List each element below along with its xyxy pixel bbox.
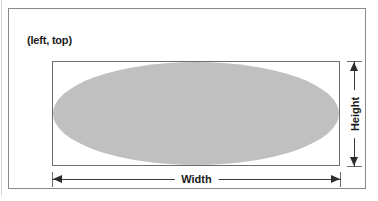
width-dimension: Width bbox=[52, 172, 341, 188]
arrow-down-icon bbox=[350, 157, 358, 166]
bounding-box bbox=[52, 61, 340, 166]
anchor-point-label: (left, top) bbox=[27, 34, 72, 46]
figure-frame: (left, top) Width Height bbox=[8, 8, 366, 189]
arrow-right-icon bbox=[331, 175, 340, 183]
width-dimension-label: Width bbox=[174, 171, 218, 187]
ellipse-shape bbox=[53, 62, 339, 165]
height-dimension-label: Height bbox=[348, 90, 363, 138]
height-dimension: Height bbox=[347, 61, 363, 167]
arrow-up-icon bbox=[350, 62, 358, 71]
arrow-left-icon bbox=[53, 175, 62, 183]
page-edge-artifact bbox=[1, 0, 2, 196]
figure-screenshot: (left, top) Width Height bbox=[0, 0, 378, 201]
